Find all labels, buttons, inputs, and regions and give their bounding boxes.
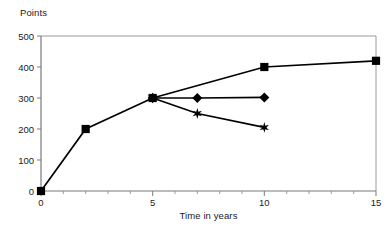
x-tick-label-10: 10 [259, 197, 270, 208]
chart-canvas: 500 400 300 200 100 0 0 5 10 15 [0, 0, 391, 234]
line-chart: Points [0, 0, 391, 234]
axes-frame [41, 36, 376, 191]
y-tick-label-0: 0 [29, 186, 34, 197]
data-point-diamond [192, 93, 202, 103]
y-tick-label-200: 200 [18, 124, 34, 135]
y-tick-label-100: 100 [18, 155, 34, 166]
y-tick-label-400: 400 [18, 62, 34, 73]
data-point-diamond [259, 92, 269, 102]
x-tick-label-0: 0 [38, 197, 43, 208]
series-layer [37, 57, 380, 195]
x-axis-label-wrap: Time in years [0, 210, 391, 221]
y-tick-label-500: 500 [18, 31, 34, 42]
data-point-square [82, 125, 90, 133]
series-line [41, 61, 376, 191]
series-square [37, 57, 380, 195]
series-line [153, 98, 265, 127]
series-line [153, 97, 265, 98]
data-point-square [372, 57, 380, 65]
x-tick-label-5: 5 [150, 197, 155, 208]
y-axis-label: Points [20, 7, 47, 19]
x-axis-ticks [41, 191, 376, 196]
data-point-square [37, 187, 45, 195]
x-axis-label: Time in years [180, 210, 238, 221]
data-point-square [260, 63, 268, 71]
x-tick-label-15: 15 [371, 197, 382, 208]
y-tick-label-300: 300 [18, 93, 34, 104]
